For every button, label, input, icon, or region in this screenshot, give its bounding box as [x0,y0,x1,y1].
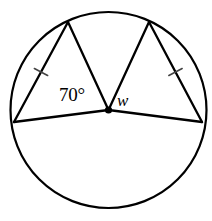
geometry-canvas [0,0,212,221]
angle-label-70-degrees: 70° [59,85,85,104]
angle-label-w: w [117,92,128,109]
center-dot-icon [105,106,112,113]
geometry-diagram: 70° w [0,0,212,221]
